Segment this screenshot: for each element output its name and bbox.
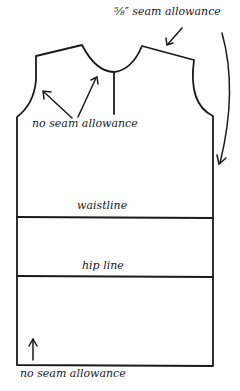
pattern-outline	[0, 0, 240, 391]
waistline	[17, 217, 213, 218]
arrow-armhole-left	[44, 92, 72, 118]
hip-line	[17, 276, 213, 277]
label-no-seam-allowance-hem: no seam allowance	[20, 368, 126, 379]
arrow-side-curve	[220, 33, 230, 163]
label-no-seam-allowance-neck: no seam allowance	[32, 118, 138, 129]
arrow-neckline	[78, 78, 96, 117]
label-hip-line: hip line	[82, 260, 124, 271]
arrow-shoulder	[168, 28, 182, 44]
label-seam-allowance: ⅝″ seam allowance	[114, 6, 221, 17]
pattern-diagram: ⅝″ seam allowance no seam allowance wais…	[0, 0, 240, 391]
label-waistline: waistline	[77, 200, 127, 211]
